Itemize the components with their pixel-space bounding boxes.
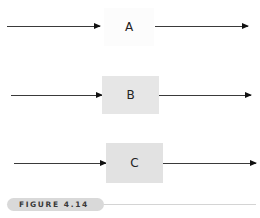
input-arrow-c <box>14 163 106 164</box>
figure-caption-text: FIGURE 4.14 <box>19 200 89 209</box>
flow-row-c: C <box>0 0 260 190</box>
output-arrow-c <box>163 163 256 164</box>
caption-rule <box>104 204 256 205</box>
process-label-c: C <box>130 156 138 170</box>
process-box-c: C <box>106 143 163 183</box>
figure-caption-badge: FIGURE 4.14 <box>7 198 104 211</box>
